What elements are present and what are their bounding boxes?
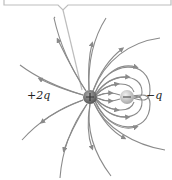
negative-charge [120, 90, 134, 104]
callout-bracket [4, 0, 171, 90]
negative-charge-label: −q [146, 89, 162, 102]
positive-charge [83, 90, 97, 104]
positive-charge-label: +2q [27, 89, 50, 102]
